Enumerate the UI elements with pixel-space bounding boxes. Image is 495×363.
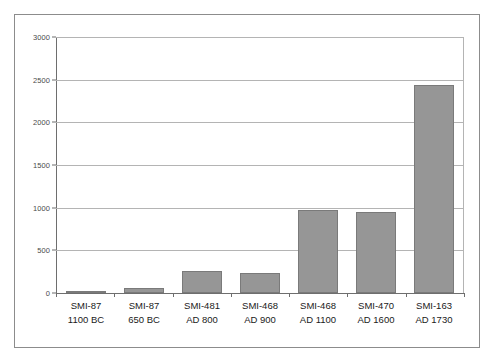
bar-slot xyxy=(289,37,347,293)
x-axis-label-sample-id: SMI-481 xyxy=(184,300,220,311)
plot-area: 300025002000150010005000 xyxy=(56,37,464,293)
bar-slot xyxy=(405,37,463,293)
x-tickmark xyxy=(173,293,174,297)
x-tickmark xyxy=(289,293,290,297)
x-axis-label-date: AD 900 xyxy=(231,313,289,327)
bar[interactable] xyxy=(124,288,164,293)
bar[interactable] xyxy=(66,291,106,293)
y-axis-label-1000: 1000 xyxy=(33,203,56,212)
bar[interactable] xyxy=(240,273,280,293)
x-axis-label-sample-id: SMI-468 xyxy=(300,300,336,311)
x-axis-label: SMI-470AD 1600 xyxy=(347,299,405,327)
x-axis-label-sample-id: SMI-87 xyxy=(71,300,102,311)
x-tickmark xyxy=(406,293,407,297)
x-tickmark xyxy=(231,293,232,297)
x-axis-label: SMI-468AD 900 xyxy=(231,299,289,327)
x-axis-labels: SMI-871100 BCSMI-87650 BCSMI-481AD 800SM… xyxy=(57,299,463,327)
x-axis-label: SMI-87650 BC xyxy=(115,299,173,327)
bar-slot xyxy=(173,37,231,293)
x-axis-label-sample-id: SMI-468 xyxy=(242,300,278,311)
bar-slot xyxy=(347,37,405,293)
bar[interactable] xyxy=(414,85,454,293)
x-axis-label-date: AD 1730 xyxy=(405,313,463,327)
x-tickmark xyxy=(114,293,115,297)
x-axis-label: SMI-481AD 800 xyxy=(173,299,231,327)
gridline-0 xyxy=(56,293,464,294)
bar-slot xyxy=(57,37,115,293)
x-axis-label-sample-id: SMI-87 xyxy=(129,300,160,311)
x-axis-label-sample-id: SMI-470 xyxy=(358,300,394,311)
bar-slot xyxy=(231,37,289,293)
y-axis-label-2000: 2000 xyxy=(33,118,56,127)
x-axis-label: SMI-871100 BC xyxy=(57,299,115,327)
x-axis-label: SMI-163AD 1730 xyxy=(405,299,463,327)
x-axis-label-date: AD 1600 xyxy=(347,313,405,327)
x-tickmark xyxy=(347,293,348,297)
bar[interactable] xyxy=(356,212,396,293)
y-axis-label-3000: 3000 xyxy=(33,33,56,42)
y-axis-label-0: 0 xyxy=(46,289,56,298)
x-axis-label: SMI-468AD 1100 xyxy=(289,299,347,327)
x-axis-label-date: 650 BC xyxy=(115,313,173,327)
bar-series xyxy=(57,37,463,293)
x-axis-label-date: AD 1100 xyxy=(289,313,347,327)
x-axis-label-sample-id: SMI-163 xyxy=(416,300,452,311)
y-axis-label-2500: 2500 xyxy=(33,75,56,84)
y-axis-label-1500: 1500 xyxy=(33,161,56,170)
bar[interactable] xyxy=(182,271,222,293)
chart-frame: 300025002000150010005000 SMI-871100 BCSM… xyxy=(14,14,480,348)
x-tickmark xyxy=(56,293,57,297)
x-tickmark xyxy=(464,293,465,297)
x-axis-label-date: 1100 BC xyxy=(57,313,115,327)
bar-slot xyxy=(115,37,173,293)
y-axis-label-500: 500 xyxy=(37,246,56,255)
x-axis-label-date: AD 800 xyxy=(173,313,231,327)
bar[interactable] xyxy=(298,210,338,293)
